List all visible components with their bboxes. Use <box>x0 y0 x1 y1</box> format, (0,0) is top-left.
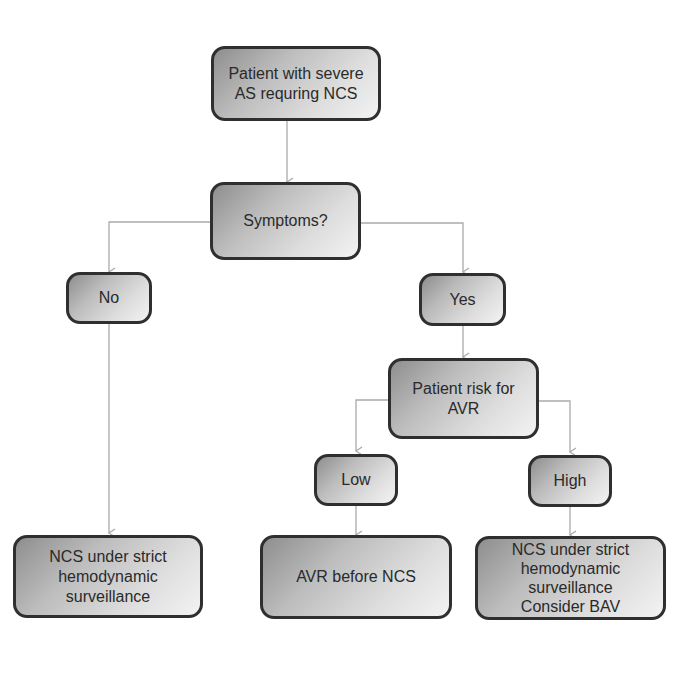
node-outcome-high: NCS under strict hemodynamic surveillanc… <box>475 536 666 620</box>
node-yes: Yes <box>419 273 506 326</box>
node-low: Low <box>314 454 398 506</box>
node-patient-risk: Patient risk for AVR <box>388 358 539 439</box>
arrow-risk-to-low <box>356 400 388 451</box>
node-start: Patient with severe AS requring NCS <box>211 46 381 121</box>
arrow-symptoms-to-no <box>109 222 210 272</box>
node-symptoms: Symptoms? <box>210 182 361 260</box>
flowchart: Patient with severe AS requring NCS Symp… <box>0 0 691 674</box>
node-outcome-low: AVR before NCS <box>260 535 452 619</box>
node-no: No <box>66 272 152 324</box>
node-outcome-no: NCS under strict hemodynamic surveillanc… <box>13 535 203 618</box>
node-high: High <box>528 455 612 507</box>
arrow-symptoms-to-yes <box>360 223 463 272</box>
arrow-risk-to-high <box>538 401 570 452</box>
